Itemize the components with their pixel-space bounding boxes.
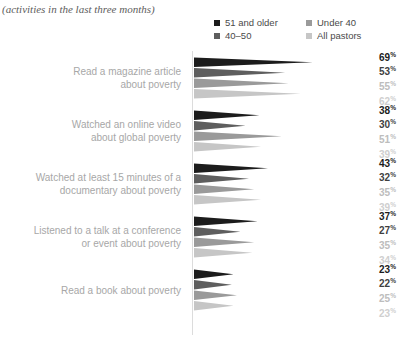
percent-sign: % (390, 103, 396, 110)
legend-swatch-icon (214, 33, 220, 39)
legend-label: 40–50 (225, 31, 251, 41)
value-number: 53 (379, 66, 390, 77)
wedge-1 (194, 163, 268, 173)
row-category-label: Watched at least 15 minutes of adocument… (5, 171, 181, 197)
legend-item-all-pastors[interactable]: All pastors (306, 31, 400, 41)
value-label: 23% (379, 304, 413, 319)
row-category-label-line: Listened to a talk at a conference (5, 224, 181, 237)
wedge-2 (194, 227, 240, 237)
value-label: 69% (379, 48, 413, 63)
wedge-1 (194, 110, 259, 120)
row-category-label-line: about global poverty (5, 131, 181, 144)
row-category-label: Read a book about poverty (5, 283, 181, 296)
percent-sign: % (390, 277, 396, 284)
chart-row: Read a book about poverty23%22%25%23% (0, 263, 415, 316)
value-number: 22 (379, 278, 390, 289)
wedge-4 (194, 142, 261, 152)
row-wedges (194, 267, 366, 313)
percent-sign: % (390, 292, 396, 299)
row-values: 69%53%55%62% (379, 48, 413, 107)
legend-item-51-and-older[interactable]: 51 and older (214, 18, 306, 28)
row-category-label-line: Read a book about poverty (5, 283, 181, 296)
wedge-1 (194, 57, 313, 67)
value-label: 32% (379, 169, 413, 184)
wedge-2 (194, 280, 232, 290)
value-number: 35 (379, 240, 390, 251)
percent-sign: % (390, 133, 396, 140)
row-wedges (194, 108, 366, 154)
percent-sign: % (390, 306, 396, 313)
legend-swatch-icon (306, 33, 312, 39)
value-label: 23% (379, 260, 413, 275)
value-number: 38 (379, 104, 390, 115)
row-category-label-line: or event about poverty (5, 237, 181, 250)
percent-sign: % (390, 186, 396, 193)
wedge-1 (194, 269, 234, 279)
percent-sign: % (390, 209, 396, 216)
percent-sign: % (390, 80, 396, 87)
row-category-label-line: Watched an online video (5, 118, 181, 131)
row-category-label-line: Read a magazine article (5, 65, 181, 78)
wedge-3 (194, 78, 289, 88)
value-label: 35% (379, 237, 413, 252)
row-category-label: Read a magazine articleabout poverty (5, 65, 181, 91)
value-label: 22% (379, 275, 413, 290)
legend-label: 51 and older (225, 18, 278, 28)
row-category-label-line: about poverty (5, 78, 181, 91)
row-values: 43%32%35%39% (379, 154, 413, 213)
value-number: 23 (379, 308, 390, 319)
chart-row: Watched at least 15 minutes of adocument… (0, 157, 415, 210)
row-values: 23%22%25%23% (379, 260, 413, 319)
value-label: 25% (379, 290, 413, 305)
row-category-label: Watched an online videoabout global pove… (5, 118, 181, 144)
wedge-4 (194, 248, 252, 258)
value-number: 51 (379, 134, 390, 145)
chart-row: Listened to a talk at a conferenceor eve… (0, 210, 415, 263)
percent-sign: % (390, 156, 396, 163)
value-label: 35% (379, 184, 413, 199)
wedge-3 (194, 290, 237, 300)
value-label: 53% (379, 63, 413, 78)
row-category-label-line: Watched at least 15 minutes of a (5, 171, 181, 184)
value-number: 37 (379, 210, 390, 221)
value-label: 27% (379, 222, 413, 237)
row-category-label: Listened to a talk at a conferenceor eve… (5, 224, 181, 250)
row-wedges (194, 214, 366, 260)
chart-subtitle: (activities in the last three months) (2, 3, 155, 15)
wedge-group (194, 214, 366, 260)
chart-legend: 51 and older Under 40 40–50 All pastors (214, 16, 400, 42)
value-number: 25 (379, 293, 390, 304)
value-label: 43% (379, 154, 413, 169)
value-number: 69 (379, 51, 390, 62)
percent-sign: % (390, 262, 396, 269)
value-number: 32 (379, 172, 390, 183)
value-label: 55% (379, 78, 413, 93)
chart-row: Read a magazine articleabout poverty69%5… (0, 51, 415, 104)
wedge-1 (194, 216, 258, 226)
row-wedges (194, 161, 366, 207)
chart-row: Watched an online videoabout global pove… (0, 104, 415, 157)
wedge-3 (194, 237, 254, 247)
wedge-3 (194, 131, 282, 141)
wedge-3 (194, 184, 254, 194)
legend-swatch-icon (214, 20, 220, 26)
wedge-2 (194, 121, 246, 131)
legend-item-40-50[interactable]: 40–50 (214, 31, 306, 41)
wedge-4 (194, 301, 234, 311)
legend-swatch-icon (306, 20, 312, 26)
percent-sign: % (390, 171, 396, 178)
wedge-group (194, 108, 366, 154)
row-wedges (194, 55, 366, 101)
legend-item-under-40[interactable]: Under 40 (306, 18, 400, 28)
wedge-group (194, 161, 366, 207)
value-number: 55 (379, 81, 390, 92)
percent-sign: % (390, 118, 396, 125)
percent-sign: % (390, 224, 396, 231)
wedge-group (194, 267, 366, 313)
value-label: 30% (379, 116, 413, 131)
value-number: 23 (379, 263, 390, 274)
row-category-label-line: documentary about poverty (5, 184, 181, 197)
value-label: 51% (379, 131, 413, 146)
wedge-4 (194, 195, 261, 205)
legend-label: Under 40 (317, 18, 356, 28)
